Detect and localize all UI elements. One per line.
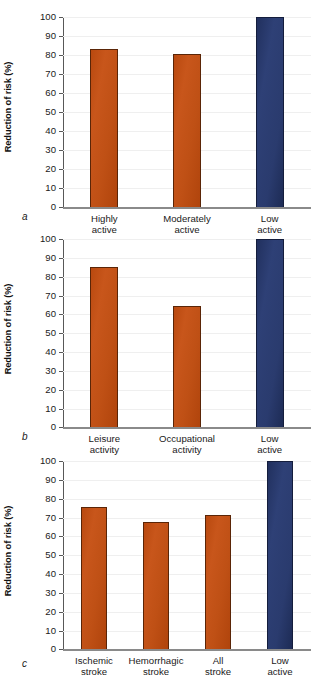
y-axis-tick-label: 0 xyxy=(51,203,56,213)
y-axis-tick-label: 60 xyxy=(45,532,56,542)
y-axis-tick-label: 10 xyxy=(45,184,56,194)
panel-b-letter: b xyxy=(22,431,28,442)
panel-c-plot-area: 0102030405060708090100 xyxy=(63,461,311,651)
y-axis-tick xyxy=(59,296,64,297)
y-axis-tick-label: 60 xyxy=(45,88,56,98)
panel-a-letter: a xyxy=(22,211,28,222)
y-axis-tick xyxy=(59,169,64,170)
y-axis-tick xyxy=(59,352,64,353)
y-axis-tick xyxy=(59,55,64,56)
bar-hemorrhagic-stroke xyxy=(143,522,169,649)
bar-low-active xyxy=(256,17,284,207)
y-axis-tick-label: 60 xyxy=(45,310,56,320)
bar-low-active xyxy=(267,461,293,649)
panel-a-y-axis-title: Reduction of risk (%) xyxy=(0,12,16,202)
y-axis-tick xyxy=(59,518,64,519)
y-axis-tick xyxy=(59,649,64,650)
y-axis-tick xyxy=(59,207,64,208)
y-axis-tick xyxy=(59,112,64,113)
panel-c-letter: c xyxy=(22,658,27,669)
bar-moderately-active xyxy=(173,54,201,207)
y-axis-tick-label: 20 xyxy=(45,607,56,617)
y-axis-tick-label: 100 xyxy=(40,456,56,466)
y-axis-tick-label: 70 xyxy=(45,291,56,301)
y-axis-tick-label: 40 xyxy=(45,126,56,136)
y-axis-tick-label: 50 xyxy=(45,107,56,117)
panel-b-x-axis xyxy=(63,427,311,429)
bar-all-stroke xyxy=(205,515,231,650)
y-axis-tick xyxy=(59,555,64,556)
y-axis-tick xyxy=(59,333,64,334)
y-axis-tick xyxy=(59,461,64,462)
y-axis-tick xyxy=(59,409,64,410)
panel-c: Reduction of risk (%) 010203040506070809… xyxy=(0,446,322,673)
y-axis-tick xyxy=(59,150,64,151)
y-axis-tick xyxy=(59,593,64,594)
y-axis-tick-label: 100 xyxy=(40,12,56,22)
y-axis-tick-label: 80 xyxy=(45,50,56,60)
y-axis-tick xyxy=(59,93,64,94)
y-axis-tick-label: 10 xyxy=(45,626,56,636)
y-axis-tick-label: 90 xyxy=(45,31,56,41)
bar-leisure-activity xyxy=(90,267,118,427)
y-axis-tick xyxy=(59,499,64,500)
y-axis-tick xyxy=(59,371,64,372)
y-axis-tick xyxy=(59,258,64,259)
y-axis-tick xyxy=(59,131,64,132)
panel-b-plot-area: 0102030405060708090100 xyxy=(63,239,311,429)
y-axis-tick xyxy=(59,612,64,613)
bar-low-active xyxy=(256,239,284,427)
y-axis-tick xyxy=(59,480,64,481)
bar-highly-active xyxy=(90,49,118,207)
y-axis-tick xyxy=(59,74,64,75)
y-axis-tick xyxy=(59,631,64,632)
y-axis-tick xyxy=(59,427,64,428)
panel-a: Reduction of risk (%) 010203040506070809… xyxy=(0,0,322,224)
x-axis-category-label: Lowactive xyxy=(267,655,292,677)
bar-ischemic-stroke xyxy=(81,507,107,649)
y-axis-tick-label: 0 xyxy=(51,645,56,655)
x-axis-category-label: Ischemicstroke xyxy=(75,655,113,677)
y-axis-tick-label: 20 xyxy=(45,385,56,395)
y-axis-tick-label: 30 xyxy=(45,145,56,155)
y-axis-tick xyxy=(59,536,64,537)
y-axis-tick-label: 20 xyxy=(45,165,56,175)
panel-b: Reduction of risk (%) 010203040506070809… xyxy=(0,224,322,446)
y-axis-tick-label: 90 xyxy=(45,475,56,485)
y-axis-tick-label: 0 xyxy=(51,423,56,433)
y-axis-tick xyxy=(59,36,64,37)
y-axis-tick-label: 50 xyxy=(45,328,56,338)
bar-occupational-activity xyxy=(173,306,201,428)
y-axis-tick-label: 70 xyxy=(45,513,56,523)
y-axis-tick xyxy=(59,390,64,391)
y-axis-tick-label: 30 xyxy=(45,366,56,376)
x-axis-category-label: Hemorrhagicstroke xyxy=(129,655,184,677)
panel-a-x-axis xyxy=(63,207,311,209)
y-axis-tick-label: 40 xyxy=(45,347,56,357)
x-axis-category-label: Allstroke xyxy=(205,655,231,677)
y-axis-tick xyxy=(59,17,64,18)
panel-b-y-axis-title: Reduction of risk (%) xyxy=(0,234,16,424)
y-axis-tick xyxy=(59,188,64,189)
y-axis-tick-label: 70 xyxy=(45,69,56,79)
y-axis-tick xyxy=(59,277,64,278)
panel-c-y-axis-title: Reduction of risk (%) xyxy=(0,456,16,646)
y-axis-tick xyxy=(59,239,64,240)
y-axis-tick-label: 40 xyxy=(45,569,56,579)
y-axis-tick-label: 90 xyxy=(45,253,56,263)
y-axis-tick-label: 100 xyxy=(40,234,56,244)
y-axis-tick xyxy=(59,574,64,575)
y-axis-tick-label: 10 xyxy=(45,404,56,414)
panel-c-x-axis xyxy=(63,649,311,651)
panel-a-plot-area: 0102030405060708090100 xyxy=(63,17,311,209)
y-axis-tick-label: 30 xyxy=(45,588,56,598)
y-axis-tick xyxy=(59,314,64,315)
y-axis-tick-label: 80 xyxy=(45,494,56,504)
y-axis-tick-label: 50 xyxy=(45,550,56,560)
y-axis-tick-label: 80 xyxy=(45,272,56,282)
